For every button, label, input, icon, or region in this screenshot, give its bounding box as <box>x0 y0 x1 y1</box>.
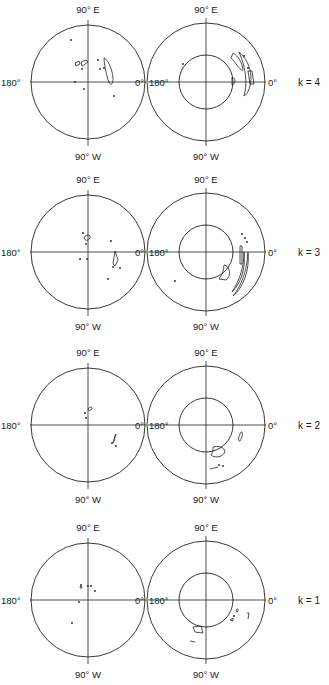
contour-dot <box>243 55 245 57</box>
contour-dot <box>113 95 115 97</box>
label-90e-right: 90° E <box>194 347 217 358</box>
label-90e-right: 90° E <box>194 174 217 185</box>
label-90w-right: 90° W <box>193 151 219 162</box>
contour-dot <box>74 81 76 83</box>
label-0-left: 0° <box>135 247 144 258</box>
contour-shape <box>104 58 113 84</box>
left-polar-disc <box>30 363 146 489</box>
contour-dot <box>112 266 114 268</box>
contour-shape <box>113 434 116 443</box>
label-90e-left: 90° E <box>76 174 99 185</box>
contour-dot <box>174 280 176 282</box>
contour-shape <box>231 53 243 70</box>
contour-dot <box>83 88 85 90</box>
label-180-left: 180° <box>1 420 21 431</box>
k-value-label: k = 3 <box>298 247 320 258</box>
contour-dot <box>84 412 86 414</box>
contour-shape <box>193 626 203 633</box>
contour-shape <box>210 467 218 469</box>
contour-dot <box>82 232 84 234</box>
contour-shape <box>232 252 244 292</box>
contour-dot <box>110 240 112 242</box>
contour-dot <box>94 590 96 592</box>
label-0-right: 0° <box>268 595 277 606</box>
contour-shape <box>247 613 249 619</box>
contour-dot <box>182 63 184 65</box>
contour-dot <box>78 601 80 603</box>
label-90e-left: 90° E <box>76 347 99 358</box>
label-0-left: 0° <box>135 420 144 431</box>
contour-shape <box>81 60 88 66</box>
contour-shape <box>84 235 90 240</box>
contour-dot <box>218 464 220 466</box>
contour-shape <box>236 609 238 612</box>
label-180-right: 180° <box>149 77 169 88</box>
label-0-right: 0° <box>268 247 277 258</box>
label-180-left: 180° <box>1 247 21 258</box>
label-0-left: 0° <box>135 595 144 606</box>
contour-shape <box>80 584 82 588</box>
label-180-left: 180° <box>1 595 21 606</box>
label-180-right: 180° <box>149 247 169 258</box>
figure-canvas: 90° E90° E90° W90° W180°0°180°0°k = 490°… <box>0 0 329 685</box>
contour-dot <box>85 243 87 245</box>
left-polar-disc <box>30 190 146 316</box>
label-180-right: 180° <box>149 595 169 606</box>
contour-dot <box>247 67 249 69</box>
label-90e-left: 90° E <box>76 522 99 533</box>
label-90w-left: 90° W <box>75 494 101 505</box>
k-value-label: k = 1 <box>298 595 320 606</box>
k-value-label: k = 2 <box>298 420 320 431</box>
contour-dot <box>81 68 83 70</box>
contour-shape <box>190 641 195 642</box>
contour-dot <box>90 585 92 587</box>
contour-shape <box>211 447 225 457</box>
contour-dot <box>222 465 224 467</box>
contour-dot <box>115 445 117 447</box>
contour-shape <box>219 265 230 280</box>
contour-dot <box>71 622 73 624</box>
contour-shape <box>240 246 242 264</box>
contour-dot <box>246 241 248 243</box>
contour-shape <box>75 61 80 66</box>
label-0-right: 0° <box>268 77 277 88</box>
panel-row-k2 <box>30 361 266 489</box>
label-0-right: 0° <box>268 420 277 431</box>
contour-dot <box>87 585 89 587</box>
contour-dot <box>103 67 105 69</box>
contour-dot <box>97 59 99 61</box>
label-90w-left: 90° W <box>75 669 101 680</box>
contour-shape <box>230 618 233 621</box>
left-polar-disc <box>30 20 146 146</box>
label-90w-left: 90° W <box>75 321 101 332</box>
label-90e-right: 90° E <box>194 4 217 15</box>
contour-shape <box>113 251 118 266</box>
panel-row-k1 <box>30 536 266 664</box>
contour-dot <box>244 237 246 239</box>
contour-dot <box>107 278 109 280</box>
label-0-left: 0° <box>135 77 144 88</box>
contour-dot <box>119 267 121 269</box>
contour-shape <box>239 52 251 96</box>
label-180-right: 180° <box>149 420 169 431</box>
contour-dot <box>86 258 88 260</box>
contour-dot <box>85 417 87 419</box>
label-90w-right: 90° W <box>193 494 219 505</box>
label-90w-right: 90° W <box>193 669 219 680</box>
label-90e-left: 90° E <box>76 4 99 15</box>
panel-row-k4 <box>30 18 266 146</box>
contour-dot <box>241 233 243 235</box>
label-180-left: 180° <box>1 77 21 88</box>
contour-dot <box>70 39 72 41</box>
label-90w-right: 90° W <box>193 321 219 332</box>
contour-dot <box>111 442 113 444</box>
panel-row-k3 <box>30 188 266 316</box>
contour-shape <box>239 432 243 441</box>
label-90w-left: 90° W <box>75 151 101 162</box>
label-90e-right: 90° E <box>194 522 217 533</box>
left-polar-disc <box>30 538 146 664</box>
k-value-label: k = 4 <box>298 77 320 88</box>
contour-dot <box>233 615 235 617</box>
contour-shape <box>88 407 92 410</box>
contour-dot <box>99 68 101 70</box>
